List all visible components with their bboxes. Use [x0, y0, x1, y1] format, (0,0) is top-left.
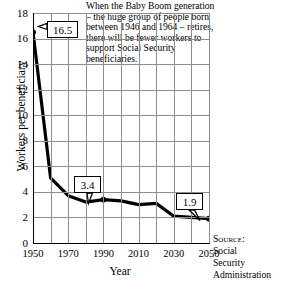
chart-figure: When the Baby Boom generation – the huge… — [0, 0, 281, 289]
gridline-vertical — [103, 13, 104, 243]
y-axis-title: Workers per beneficiary — [15, 41, 27, 191]
gridline-vertical — [156, 13, 157, 243]
gridline-vertical — [86, 13, 87, 243]
callout-last-value: 1.9 — [176, 193, 203, 210]
gridline-vertical — [139, 13, 140, 243]
x-axis-line — [33, 243, 210, 244]
source-line: Security — [213, 257, 281, 269]
x-axis-tick-label: 1990 — [83, 248, 123, 259]
source-line: Social — [213, 245, 281, 257]
callout-first-value: 16.5 — [47, 21, 78, 38]
x-axis-tick-label: 1970 — [48, 248, 88, 259]
y-axis-tick-label: 2 — [0, 212, 28, 223]
gridline-vertical — [121, 13, 122, 243]
x-axis-tick-label: 2010 — [119, 248, 159, 259]
source-label: Source: — [213, 233, 281, 245]
gridline-vertical — [68, 13, 69, 243]
y-axis-tick-label: 18 — [0, 8, 28, 19]
gridline-vertical — [174, 13, 175, 243]
gridline-vertical — [209, 13, 210, 243]
y-axis-tick-label: 0 — [0, 238, 28, 249]
x-axis-title: Year — [85, 265, 155, 277]
x-axis-tick-label: 1950 — [13, 248, 53, 259]
gridline-vertical — [51, 13, 52, 243]
source-line: Administration — [213, 269, 281, 281]
callout-middle-value: 3.4 — [74, 176, 101, 193]
x-axis-tick-label: 2030 — [154, 248, 194, 259]
y-axis-line — [33, 13, 34, 244]
source-credit: Source: Social Security Administration — [213, 233, 281, 281]
annotation-line: When the Baby Boom generation — [86, 1, 216, 12]
